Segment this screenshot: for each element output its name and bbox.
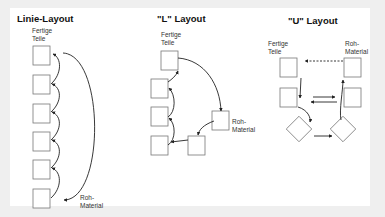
linie-station-3 [33,104,50,123]
linie-station-1 [33,46,50,65]
l-station-5 [188,136,205,155]
u-station-6 [330,116,355,141]
u-station-3 [344,58,361,77]
l-station-3 [151,107,168,126]
linie-station-5 [33,160,50,179]
u-station-5 [286,116,311,141]
l-station-2 [151,79,168,98]
l-station-6 [212,111,229,130]
u-station-4 [344,88,361,107]
l-station-1 [161,51,178,70]
layout-diagrams [0,0,385,217]
u-station-2 [280,88,297,107]
linie-station-2 [33,75,50,94]
linie-station-4 [33,132,50,151]
linie-station-6 [33,189,50,208]
l-station-4 [151,136,168,155]
u-station-1 [280,58,297,77]
